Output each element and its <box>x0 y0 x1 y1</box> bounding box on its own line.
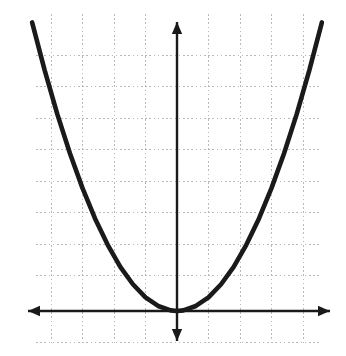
parabola-graph-figure: Graph of an upward opening parabola with… <box>0 0 346 356</box>
coordinate-plane-svg: Graph of an upward opening parabola with… <box>0 0 346 356</box>
figure-background <box>0 0 346 356</box>
